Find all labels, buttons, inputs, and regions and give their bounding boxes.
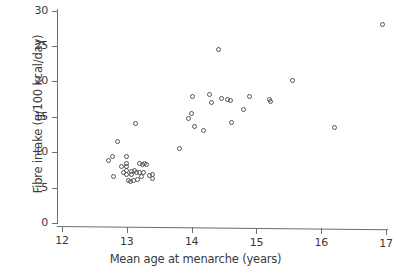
data-point [192, 124, 197, 129]
x-tick-label: 13 [115, 236, 139, 247]
data-point [144, 162, 149, 167]
data-point [380, 22, 385, 27]
x-tick-mark [192, 227, 193, 233]
data-point [216, 47, 221, 52]
data-point [189, 111, 194, 116]
data-point [207, 92, 212, 97]
x-tick-label: 15 [244, 237, 268, 248]
data-point [290, 78, 295, 83]
data-point [229, 120, 234, 125]
data-point [219, 96, 224, 101]
x-tick-mark [321, 228, 322, 234]
x-tick-mark [127, 227, 128, 233]
data-point [124, 154, 129, 159]
data-point [139, 174, 144, 179]
data-point [332, 125, 337, 130]
data-point [190, 94, 195, 99]
data-point [150, 176, 155, 181]
x-tick-label: 12 [50, 235, 74, 246]
data-point [186, 116, 191, 121]
x-axis-line [57, 226, 388, 230]
y-tick-mark [52, 11, 58, 12]
data-point [106, 158, 111, 163]
y-tick-mark [52, 46, 58, 47]
data-point [115, 139, 120, 144]
data-point [268, 99, 273, 104]
data-point [141, 170, 146, 175]
y-tick-mark [52, 223, 58, 224]
data-point [247, 94, 252, 99]
y-axis-title: Fibre intake (g/100 kcal/day) [32, 9, 44, 219]
data-point [133, 121, 138, 126]
y-tick-mark [52, 152, 58, 153]
y-tick-mark [52, 188, 58, 189]
x-tick-label: 16 [309, 237, 333, 248]
y-tick-mark [52, 81, 58, 82]
x-tick-mark [256, 228, 257, 234]
data-point [111, 174, 116, 179]
y-tick-mark [52, 117, 58, 118]
x-tick-label: 14 [180, 236, 204, 247]
data-point [228, 98, 233, 103]
x-tick-label: 17 [374, 238, 397, 249]
data-point [201, 128, 206, 133]
data-point [209, 100, 214, 105]
data-point [110, 154, 115, 159]
data-point [177, 146, 182, 151]
data-point [241, 107, 246, 112]
x-tick-mark [62, 226, 63, 232]
x-axis-title: Mean age at menarche (years) [0, 253, 391, 265]
x-tick-mark [386, 229, 387, 235]
